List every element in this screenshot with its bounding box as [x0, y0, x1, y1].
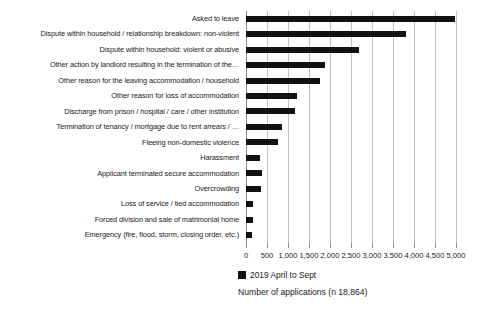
bar-rows — [246, 11, 456, 243]
bar-row — [246, 227, 456, 242]
x-tick-label: 5,000 — [446, 250, 465, 261]
bar-row — [246, 135, 456, 150]
bar — [246, 201, 253, 207]
y-axis-label: Asked to leave — [0, 11, 242, 26]
y-axis-label: Loss of service / tied accommodation — [0, 196, 242, 211]
bar-row — [246, 104, 456, 119]
y-axis-label: Other reason for the leaving accommodati… — [0, 73, 242, 88]
x-tick — [414, 243, 415, 248]
x-tick — [288, 243, 289, 248]
y-axis-label: Other reason for loss of accommodation — [0, 88, 242, 103]
x-tick — [456, 243, 457, 248]
bar — [246, 186, 261, 192]
x-tick — [393, 243, 394, 248]
bar-row — [246, 166, 456, 181]
x-axis-ticks — [246, 243, 456, 249]
bar-row — [246, 181, 456, 196]
y-axis-label: Discharge from prison / hospital / care … — [0, 104, 242, 119]
bar-row — [246, 42, 456, 57]
x-tick — [246, 243, 247, 248]
bar — [246, 31, 406, 37]
x-tick — [330, 243, 331, 248]
plot-area — [246, 11, 456, 243]
y-axis-label: Termination of tenancy / mortgage due to… — [0, 119, 242, 134]
y-axis-label: Forced division and sale of matrimonial … — [0, 212, 242, 227]
x-axis-tick-labels: 05001,0001,5002,0002,5003,0003,5004,0004… — [246, 250, 456, 262]
y-axis-label: Dispute within household: violent or abu… — [0, 42, 242, 57]
y-axis-label: Dispute within household / relationship … — [0, 26, 242, 41]
y-axis-label: Overcrowding — [0, 181, 242, 196]
bar — [246, 62, 325, 68]
x-tick-label: 4,500 — [425, 250, 444, 261]
bar — [246, 217, 253, 223]
x-tick — [267, 243, 268, 248]
x-tick-label: 3,500 — [383, 250, 402, 261]
bar-row — [246, 212, 456, 227]
bar — [246, 78, 320, 84]
bar-row — [246, 57, 456, 72]
gridline-5000 — [456, 11, 457, 243]
x-tick-label: 1,500 — [299, 250, 318, 261]
x-tick — [351, 243, 352, 248]
x-tick — [435, 243, 436, 248]
bar-row — [246, 26, 456, 41]
x-tick-label: 2,500 — [341, 250, 360, 261]
legend-label: 2019 April to Sept — [250, 270, 316, 280]
y-axis-label: Harassment — [0, 150, 242, 165]
bar-row — [246, 150, 456, 165]
x-tick — [372, 243, 373, 248]
y-axis-label: Applicant terminated secure accommodatio… — [0, 166, 242, 181]
bar — [246, 47, 359, 53]
x-tick — [309, 243, 310, 248]
bar-chart: Asked to leaveDispute within household /… — [0, 0, 501, 314]
x-tick-label: 3,000 — [362, 250, 381, 261]
legend-swatch-icon — [238, 271, 246, 279]
y-axis-category-labels: Asked to leaveDispute within household /… — [0, 11, 242, 243]
bar — [246, 16, 455, 22]
bar — [246, 108, 295, 114]
bar — [246, 170, 262, 176]
y-axis-label: Fleeing non-domestic violence — [0, 135, 242, 150]
bar — [246, 124, 282, 130]
x-tick-label: 4,000 — [404, 250, 423, 261]
chart-legend: 2019 April to Sept — [238, 270, 316, 280]
bar-row — [246, 119, 456, 134]
x-axis-title: Number of applications (n 18,864) — [238, 287, 367, 298]
bar-row — [246, 11, 456, 26]
y-axis-label: Emergency (fire, flood, storm, closing o… — [0, 227, 242, 242]
bar — [246, 93, 297, 99]
x-tick-label: 0 — [244, 250, 248, 261]
x-tick-label: 1,000 — [278, 250, 297, 261]
bar-row — [246, 88, 456, 103]
bar — [246, 232, 252, 238]
x-tick-label: 500 — [261, 250, 274, 261]
y-axis-label: Other action by landlord resulting in th… — [0, 57, 242, 72]
bar-row — [246, 73, 456, 88]
bar-row — [246, 196, 456, 211]
x-tick-label: 2,000 — [320, 250, 339, 261]
bar — [246, 139, 278, 145]
bar — [246, 155, 260, 161]
